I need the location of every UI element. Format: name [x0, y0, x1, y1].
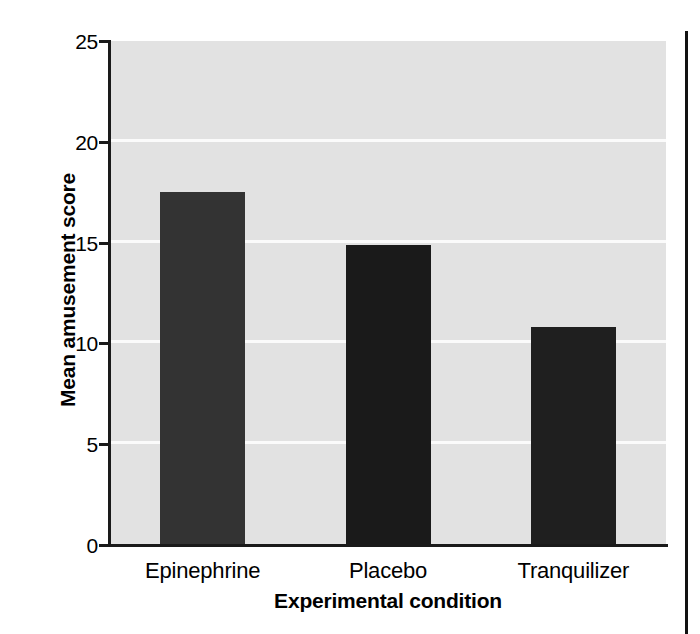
y-axis-title: Mean amusement score — [56, 140, 80, 440]
gridline — [110, 139, 666, 142]
y-tick-mark — [99, 40, 111, 43]
bar-tranquilizer[interactable] — [531, 327, 616, 545]
x-tick-label-epinephrine: Epinephrine — [145, 556, 260, 586]
x-tick-label-tranquilizer: Tranquilizer — [517, 556, 629, 586]
y-tick-label-0: 0 — [40, 535, 98, 556]
page-margin-rule — [685, 31, 688, 634]
y-tick-mark — [99, 141, 111, 144]
y-tick-label-25: 25 — [40, 31, 98, 52]
y-tick-mark — [99, 443, 111, 446]
x-axis-title: Experimental condition — [110, 589, 666, 613]
bar-epinephrine[interactable] — [160, 192, 245, 545]
bar-chart-figure: 0510152025 Mean amusement score Epinephr… — [0, 0, 700, 634]
bar-placebo[interactable] — [346, 245, 431, 545]
y-tick-mark — [99, 242, 111, 245]
y-axis-line — [108, 40, 111, 547]
y-tick-mark — [99, 342, 111, 345]
y-tick-mark — [99, 544, 111, 547]
x-axis-tick-labels: EpinephrinePlaceboTranquilizer — [110, 556, 666, 590]
x-tick-label-placebo: Placebo — [349, 556, 427, 586]
x-axis-line — [108, 544, 668, 547]
plot-area — [110, 41, 666, 545]
